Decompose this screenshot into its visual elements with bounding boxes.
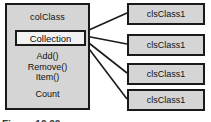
collection-methods-list: Add() Remove() Item() [7, 51, 88, 83]
figure-caption: Figure 12.22 [2, 119, 60, 122]
collection-field[interactable]: Collection [15, 30, 86, 46]
collection-class-box[interactable]: colClass Collection Add() Remove() Item(… [5, 3, 90, 110]
member-class-box-2[interactable]: clsClass1 [127, 34, 205, 56]
member-class-box-4[interactable]: clsClass1 [127, 89, 205, 111]
method-add: Add() [7, 51, 88, 62]
method-remove: Remove() [7, 62, 88, 73]
member-class-box-3[interactable]: clsClass1 [127, 63, 205, 85]
collection-class-title: colClass [7, 12, 88, 22]
figure-canvas: colClass Collection Add() Remove() Item(… [0, 0, 211, 122]
collection-property-count: Count [7, 89, 88, 99]
member-class-box-1[interactable]: clsClass1 [127, 3, 205, 25]
method-item: Item() [7, 72, 88, 83]
